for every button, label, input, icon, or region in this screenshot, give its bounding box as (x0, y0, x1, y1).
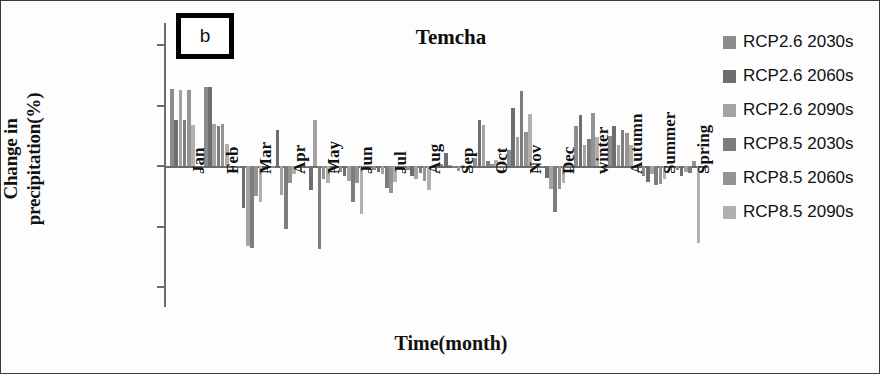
bar (250, 166, 254, 248)
bar (377, 166, 381, 172)
legend-swatch-icon (723, 36, 736, 49)
legend-label: RCP2.6 2090s (743, 100, 854, 120)
bar (179, 90, 183, 166)
legend-label: RCP8.5 2030s (743, 134, 854, 154)
bar (452, 166, 456, 168)
bar (587, 139, 591, 166)
legend-item[interactable]: RCP2.6 2090s (723, 93, 879, 127)
bar (617, 145, 621, 166)
bar (276, 130, 280, 166)
bar (688, 166, 692, 173)
x-axis-category-label: Dec (559, 147, 579, 174)
bar (621, 130, 625, 166)
bar (170, 89, 174, 166)
y-axis-tick-mark (157, 165, 165, 167)
x-axis-category-label: Nov (526, 145, 546, 174)
legend-label: RCP8.5 2060s (743, 168, 854, 188)
chart-figure: Change in precipitation(%) Time(month) T… (0, 0, 880, 374)
bar (650, 166, 654, 174)
legend-item[interactable]: RCP8.5 2030s (723, 127, 879, 161)
x-axis-title: Time(month) (251, 332, 651, 355)
legend-item[interactable]: RCP2.6 2060s (723, 59, 879, 93)
bar (212, 124, 216, 166)
bar (516, 137, 520, 166)
x-axis-category-label: Sep (458, 148, 478, 174)
bar (381, 166, 385, 174)
x-axis-category-label: Feb (223, 147, 243, 174)
y-axis-tick-mark (157, 44, 165, 46)
bar (654, 166, 658, 185)
x-axis-category-label: winter (593, 127, 613, 174)
x-axis-category-label: Jul (391, 151, 411, 174)
bar (697, 166, 701, 243)
bar (174, 120, 178, 166)
bar (351, 166, 355, 202)
bar (385, 166, 389, 188)
x-axis-category-label: Apr (290, 145, 310, 174)
bar (419, 166, 423, 173)
bar (183, 120, 187, 166)
y-axis-tick-mark (157, 226, 165, 228)
chart-legend: RCP2.6 2030sRCP2.6 2060sRCP2.6 2090sRCP8… (723, 25, 879, 229)
bar (318, 166, 322, 249)
x-axis-category-label: Oct (492, 148, 512, 174)
legend-label: RCP2.6 2060s (743, 66, 854, 86)
x-axis-category-label: Aug (425, 144, 445, 174)
bar (486, 161, 490, 166)
legend-item[interactable]: RCP8.5 2060s (723, 161, 879, 195)
x-axis-category-label: Jun (357, 147, 377, 174)
bar (579, 115, 583, 166)
bar (583, 145, 587, 166)
bar (414, 166, 418, 179)
bar (313, 120, 317, 166)
legend-item[interactable]: RCP2.6 2030s (723, 25, 879, 59)
legend-item[interactable]: RCP8.5 2090s (723, 195, 879, 229)
bar (217, 126, 221, 166)
x-axis-category-label: Mar (256, 142, 276, 174)
y-axis-tick-mark (157, 286, 165, 288)
x-axis-category-label: May (324, 141, 344, 174)
bar (553, 166, 557, 212)
y-axis-title: Change in precipitation(%) (0, 34, 45, 284)
legend-swatch-icon (723, 138, 736, 151)
legend-swatch-icon (723, 70, 736, 83)
bar (482, 125, 486, 166)
bar (684, 166, 688, 172)
legend-swatch-icon (723, 172, 736, 185)
x-axis-category-label: Summer (660, 112, 680, 174)
legend-swatch-icon (723, 104, 736, 117)
legend-label: RCP8.5 2090s (743, 202, 854, 222)
x-axis-category-label: Autumn (627, 114, 647, 174)
legend-label: RCP2.6 2030s (743, 32, 854, 52)
y-axis-tick-mark (157, 105, 165, 107)
bar (347, 166, 351, 181)
bar (549, 166, 553, 189)
legend-swatch-icon (723, 206, 736, 219)
bar (280, 166, 284, 195)
bar (448, 165, 452, 166)
x-axis-category-label: Spring (694, 125, 714, 174)
bar (680, 166, 684, 176)
bar (284, 166, 288, 229)
bar (246, 166, 250, 246)
x-axis-category-label: Jan (189, 148, 209, 174)
bar (520, 91, 524, 166)
bar (478, 120, 482, 166)
